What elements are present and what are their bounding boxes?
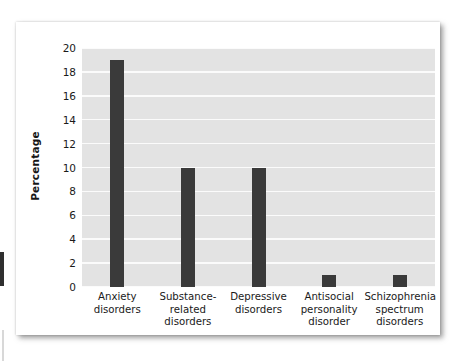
x-axis-category-label: Substance- related disorders <box>153 291 224 329</box>
y-axis-title: Percentage <box>29 111 41 221</box>
y-axis-tick-label: 2 <box>50 257 76 269</box>
page-edge-rule <box>2 330 4 361</box>
bar <box>110 60 124 287</box>
y-axis-tick-label: 18 <box>50 66 76 78</box>
bar <box>322 275 336 287</box>
y-axis-tick-label: 20 <box>50 42 76 54</box>
x-axis-category-label: Antisocial personality disorder <box>294 291 365 329</box>
gridline <box>82 71 435 73</box>
y-axis-tick-label: 12 <box>50 138 76 150</box>
bar <box>181 168 195 288</box>
figure-card: Percentage 02468101214161820 Anxiety dis… <box>16 22 440 335</box>
gridline <box>82 143 435 145</box>
bar-chart: Percentage 02468101214161820 Anxiety dis… <box>16 22 440 335</box>
plot-area <box>82 48 435 287</box>
y-axis-tick-label: 10 <box>50 162 76 174</box>
y-axis-tick-label: 8 <box>50 185 76 197</box>
gridline <box>82 95 435 97</box>
x-axis-category-label: Anxiety disorders <box>82 291 153 316</box>
x-axis-category-label: Schizophrenia spectrum disorders <box>364 291 435 329</box>
gridline <box>82 119 435 121</box>
y-axis-tick-label: 0 <box>50 281 76 293</box>
bar <box>252 168 266 288</box>
y-axis-tick-label: 16 <box>50 90 76 102</box>
page-edge-artifact <box>0 252 4 286</box>
y-axis-tick-label: 14 <box>50 114 76 126</box>
bar <box>393 275 407 287</box>
y-axis-tick-label: 4 <box>50 233 76 245</box>
y-axis-tick-label: 6 <box>50 209 76 221</box>
gridline <box>82 48 435 49</box>
x-axis-category-label: Depressive disorders <box>223 291 294 316</box>
